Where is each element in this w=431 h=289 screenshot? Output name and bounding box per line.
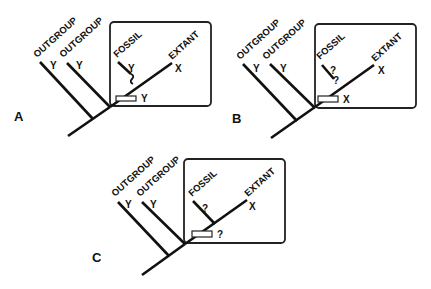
panel-label-b: B xyxy=(232,111,241,126)
extant-state: X xyxy=(249,201,256,212)
extant-state: X xyxy=(378,65,385,76)
panel-label-a: A xyxy=(14,109,24,124)
root-stem xyxy=(68,107,110,136)
extant-label: EXTANT xyxy=(242,165,277,198)
character-box xyxy=(192,231,212,237)
fossil-uncertain: ? xyxy=(333,75,339,86)
node-state: X xyxy=(343,94,350,105)
outgroup-state-1: Y xyxy=(125,199,132,210)
fossil-label: FOSSIL xyxy=(111,28,144,59)
outgroup-state-2: Y xyxy=(76,60,83,71)
panel-a: OUTGROUP OUTGROUP Y Y FOSSIL Y EXTANT X … xyxy=(14,14,211,136)
outgroup-branch-2 xyxy=(67,63,110,107)
root-stem xyxy=(271,107,315,138)
fossil-state: ? xyxy=(202,203,208,214)
character-box xyxy=(318,96,338,102)
fossil-state: Y xyxy=(128,63,135,74)
extant-state: X xyxy=(175,63,182,74)
outgroup-state-1: Y xyxy=(50,60,57,71)
panel-b: OUTGROUP OUTGROUP Y Y FOSSIL ? ? EXTANT … xyxy=(232,16,416,138)
outgroup-branch-1 xyxy=(243,64,297,121)
node-state: ? xyxy=(217,229,223,240)
outgroup-state-2: Y xyxy=(280,63,287,74)
outgroup-branch-1 xyxy=(40,62,93,119)
outgroup-branch-1 xyxy=(118,202,169,256)
outgroup-branch-2 xyxy=(142,202,185,244)
cladogram-figure: OUTGROUP OUTGROUP Y Y FOSSIL Y EXTANT X … xyxy=(0,0,431,289)
fossil-uncertain-squiggle xyxy=(131,74,134,84)
extant-label: EXTANT xyxy=(369,30,404,63)
panel-c: OUTGROUP OUTGROUP Y Y FOSSIL ? EXTANT X … xyxy=(92,153,285,275)
fossil-label: FOSSIL xyxy=(186,167,219,198)
outgroup-state-1: Y xyxy=(253,63,260,74)
outgroup-state-2: Y xyxy=(150,199,157,210)
extant-label: EXTANT xyxy=(166,28,201,61)
node-state: Y xyxy=(141,93,148,104)
fossil-label: FOSSIL xyxy=(314,30,347,61)
panel-label-c: C xyxy=(92,250,102,265)
character-box xyxy=(116,96,136,101)
